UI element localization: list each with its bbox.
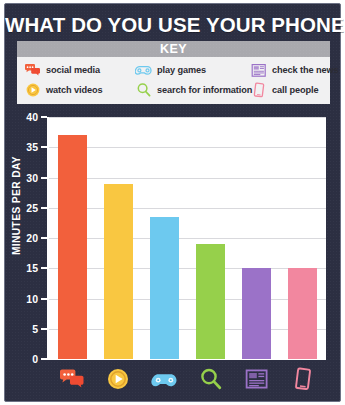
y-axis: MINUTES PER DAY 0510152025303540 xyxy=(0,0,47,405)
y-axis-tick-label: 30 xyxy=(26,173,38,183)
key-body: social media play games xyxy=(17,57,330,104)
y-axis-tick-label: 0 xyxy=(32,354,38,364)
key-item-search-for-information: search for information xyxy=(135,80,250,100)
bar xyxy=(288,268,317,359)
y-axis-tick-label: 20 xyxy=(26,233,38,243)
infographic-root: WHAT DO YOU USE YOUR PHONE FOR? KEY xyxy=(0,0,345,405)
key-item-label: watch videos xyxy=(46,85,103,95)
phone-icon xyxy=(250,82,267,99)
bar xyxy=(104,184,133,359)
gamepad-icon xyxy=(135,62,152,79)
key-item-label: search for information xyxy=(157,85,252,95)
gamepad-icon xyxy=(150,364,179,394)
key-header: KEY xyxy=(17,41,330,57)
y-axis-tick-label: 25 xyxy=(26,203,38,213)
key-item-play-games: play games xyxy=(135,60,250,80)
key-row: social media play games xyxy=(17,60,330,80)
key-item-label: play games xyxy=(157,65,206,75)
key-item-label: social media xyxy=(46,65,100,75)
y-axis-tick-label: 40 xyxy=(26,112,38,122)
y-axis-tick-label: 5 xyxy=(32,324,38,334)
newspaper-icon xyxy=(242,364,271,394)
y-axis-tick-label: 15 xyxy=(26,263,38,273)
plot-area xyxy=(49,117,326,359)
bar-series xyxy=(49,117,326,359)
play-button-icon xyxy=(104,364,133,394)
bar xyxy=(196,244,225,359)
phone-icon xyxy=(288,364,317,394)
key-row: watch videos search for information xyxy=(17,80,330,100)
x-axis-category-icons xyxy=(49,362,326,396)
y-axis-tick-label: 10 xyxy=(26,294,38,304)
magnifier-icon xyxy=(135,82,152,99)
key-item-call-people: call people xyxy=(250,80,330,100)
key-item-label: call people xyxy=(272,85,318,95)
bar xyxy=(150,217,179,359)
newspaper-icon xyxy=(250,62,267,79)
y-axis-tick-label: 35 xyxy=(26,142,38,152)
bar xyxy=(242,268,271,359)
bar xyxy=(58,135,87,359)
y-axis-title: MINUTES PER DAY xyxy=(11,146,22,266)
speech-bubbles-icon xyxy=(58,364,87,394)
magnifier-icon xyxy=(196,364,225,394)
key-item-check-the-news: check the news xyxy=(250,60,330,80)
key-item-label: check the news xyxy=(272,65,339,75)
key-panel: KEY xyxy=(17,41,330,104)
page-title: WHAT DO YOU USE YOUR PHONE FOR? xyxy=(5,13,342,37)
